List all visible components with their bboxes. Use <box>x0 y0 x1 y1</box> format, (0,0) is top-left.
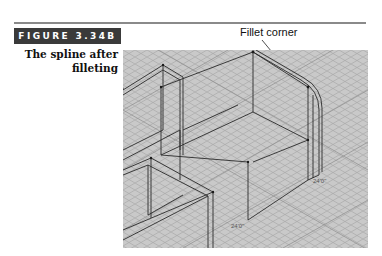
dimension-label-right: 24'0" <box>313 178 326 184</box>
dimension-label-bottom: 24'0" <box>231 223 244 229</box>
cad-viewport[interactable]: 24'0" 24'0" <box>123 50 368 248</box>
wireframe-drawing: 24'0" 24'0" <box>123 50 368 248</box>
